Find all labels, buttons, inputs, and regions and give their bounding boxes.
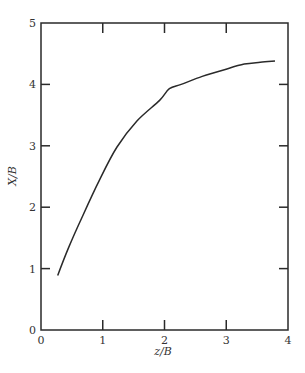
x-tick-label: 4 (285, 334, 292, 347)
x-tick-label: 0 (38, 334, 45, 347)
x-axis-label: z/B (153, 345, 172, 358)
y-tick-label: 0 (29, 324, 36, 337)
y-tick-label: 2 (29, 201, 36, 214)
data-curve (58, 61, 275, 275)
axis-ticks (41, 23, 288, 330)
x-tick-label: 3 (223, 334, 230, 347)
y-tick-label: 4 (29, 78, 36, 91)
chart: 01234012345 z/B X/B (0, 0, 305, 373)
plot-border (41, 23, 288, 330)
x-tick-label: 1 (99, 334, 106, 347)
tick-labels: 01234012345 (29, 17, 292, 347)
y-tick-label: 5 (29, 17, 36, 30)
y-axis-label: X/B (6, 166, 19, 187)
plot-frame (41, 23, 288, 330)
y-tick-label: 3 (29, 140, 36, 153)
y-tick-label: 1 (29, 263, 36, 276)
